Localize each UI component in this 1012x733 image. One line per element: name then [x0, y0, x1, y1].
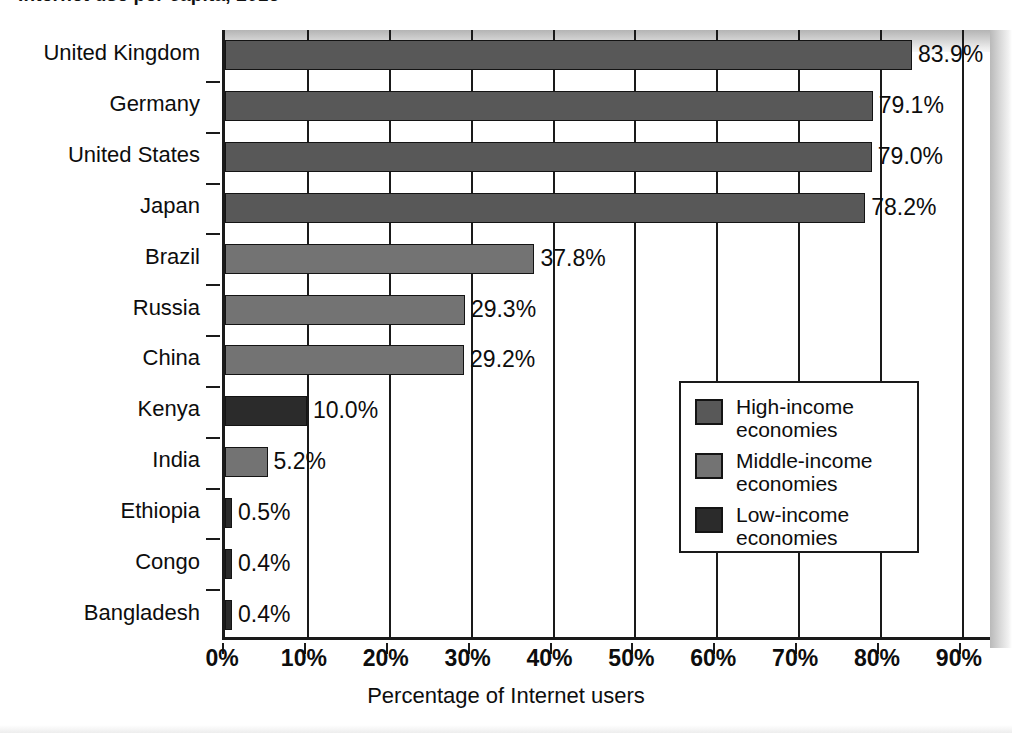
category-label-japan: Japan — [0, 191, 200, 221]
category-axis-tick-10 — [206, 589, 220, 591]
x-tick-label-90: 90% — [936, 645, 982, 672]
legend-label-low-income: Low-incomeeconomies — [736, 503, 849, 549]
legend-item-high-income: High-incomeeconomies — [695, 395, 917, 441]
legend-swatch-high-income — [695, 399, 723, 425]
bar-germany — [225, 91, 873, 121]
category-axis-tick-2 — [206, 183, 220, 185]
category-label-china: China — [0, 343, 200, 373]
value-label-united-states: 79.0% — [878, 141, 943, 171]
category-label-germany: Germany — [0, 89, 200, 119]
x-axis-title: Percentage of Internet users — [0, 683, 1012, 709]
value-label-china: 29.2% — [470, 344, 535, 374]
category-axis-tick-9 — [206, 538, 220, 540]
category-label-congo: Congo — [0, 547, 200, 577]
category-label-united-kingdom: United Kingdom — [0, 38, 200, 68]
category-label-kenya: Kenya — [0, 394, 200, 424]
legend-label-middle-income: Middle-incomeeconomies — [736, 449, 873, 495]
bar-china — [225, 345, 464, 375]
category-axis-tick-1 — [206, 132, 220, 134]
category-label-russia: Russia — [0, 293, 200, 323]
legend-label-line2: economies — [736, 526, 849, 549]
category-axis-tick-6 — [206, 386, 220, 388]
x-tick-label-40: 40% — [526, 645, 572, 672]
x-tick-label-50: 50% — [608, 645, 654, 672]
bar-japan — [225, 193, 865, 223]
legend-label-line1: Low-income — [736, 503, 849, 526]
category-label-united-states: United States — [0, 140, 200, 170]
bar-india — [225, 447, 268, 477]
x-tick-label-0: 0% — [205, 645, 238, 672]
value-label-congo: 0.4% — [238, 548, 290, 578]
value-label-brazil: 37.8% — [540, 243, 605, 273]
page-edge-shadow — [990, 30, 1012, 648]
legend-label-line1: Middle-income — [736, 449, 873, 472]
value-label-russia: 29.3% — [471, 294, 536, 324]
legend-swatch-middle-income — [695, 453, 723, 479]
x-tick-label-30: 30% — [445, 645, 491, 672]
bar-united-states — [225, 142, 872, 172]
category-label-brazil: Brazil — [0, 242, 200, 272]
page-bottom-edge — [0, 725, 1012, 733]
category-label-bangladesh: Bangladesh — [0, 598, 200, 628]
legend-label-line2: economies — [736, 418, 854, 441]
value-label-germany: 79.1% — [879, 90, 944, 120]
bar-russia — [225, 295, 465, 325]
bar-brazil — [225, 244, 534, 274]
x-tick-label-60: 60% — [690, 645, 736, 672]
legend-item-low-income: Low-incomeeconomies — [695, 503, 917, 549]
value-label-bangladesh: 0.4% — [238, 599, 290, 629]
chart-title: Internet use per capita, 2016 — [18, 0, 279, 6]
bar-united-kingdom — [225, 40, 912, 70]
value-label-japan: 78.2% — [871, 192, 936, 222]
bar-bangladesh — [225, 600, 232, 630]
category-axis-tick-0 — [206, 81, 220, 83]
bar-congo — [225, 549, 232, 579]
legend-item-middle-income: Middle-incomeeconomies — [695, 449, 917, 495]
x-tick-label-20: 20% — [363, 645, 409, 672]
value-label-india: 5.2% — [274, 446, 326, 476]
chart-page: Internet use per capita, 2016 0%10%20%30… — [0, 0, 1012, 733]
legend-label-line2: economies — [736, 472, 873, 495]
gridline-90 — [962, 30, 964, 637]
x-tick-label-70: 70% — [772, 645, 818, 672]
category-axis-tick-3 — [206, 233, 220, 235]
value-label-ethiopia: 0.5% — [238, 497, 290, 527]
category-label-india: India — [0, 445, 200, 475]
legend: High-incomeeconomiesMiddle-incomeeconomi… — [679, 381, 919, 553]
value-label-kenya: 10.0% — [313, 395, 378, 425]
category-axis-tick-5 — [206, 335, 220, 337]
legend-label-high-income: High-incomeeconomies — [736, 395, 854, 441]
bar-ethiopia — [225, 498, 232, 528]
category-axis-tick-8 — [206, 488, 220, 490]
x-tick-label-10: 10% — [281, 645, 327, 672]
bar-kenya — [225, 396, 307, 426]
x-tick-label-80: 80% — [854, 645, 900, 672]
value-label-united-kingdom: 83.9% — [918, 39, 983, 69]
category-axis-tick-7 — [206, 437, 220, 439]
category-axis-tick-4 — [206, 284, 220, 286]
legend-swatch-low-income — [695, 507, 723, 533]
category-label-ethiopia: Ethiopia — [0, 496, 200, 526]
legend-label-line1: High-income — [736, 395, 854, 418]
